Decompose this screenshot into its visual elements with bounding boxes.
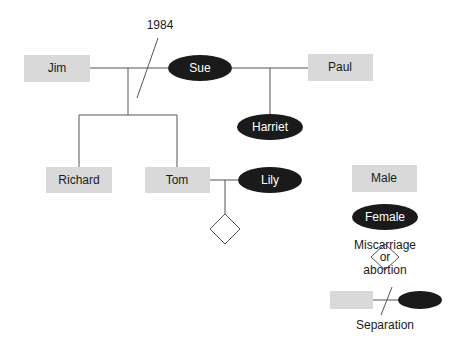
separation-slash bbox=[381, 287, 392, 315]
person-richard: Richard bbox=[46, 167, 112, 193]
person-label: Tom bbox=[166, 173, 189, 187]
legend-separation: Separation bbox=[330, 287, 442, 332]
legend-female: Female bbox=[352, 204, 418, 230]
person-label: Paul bbox=[328, 60, 352, 74]
person-label: Sue bbox=[189, 61, 211, 75]
person-paul: Paul bbox=[308, 54, 373, 81]
person-jim: Jim bbox=[24, 55, 90, 82]
person-label: Lily bbox=[261, 173, 279, 187]
person-sue: Sue bbox=[168, 55, 232, 81]
miscarriage-diamond bbox=[210, 214, 240, 244]
person-lily: Lily bbox=[238, 167, 302, 193]
person-label: Jim bbox=[48, 61, 67, 75]
legend-female-label: Female bbox=[365, 210, 405, 224]
legend-miscarriage-line3: abortion bbox=[363, 263, 406, 277]
genogram-diagram: 1984 Jim Sue Paul Harriet Richard Tom Li… bbox=[0, 0, 462, 344]
legend-male-label: Male bbox=[371, 171, 397, 185]
person-harriet: Harriet bbox=[237, 114, 303, 140]
person-label: Richard bbox=[58, 173, 99, 187]
legend-separation-label: Separation bbox=[356, 318, 414, 332]
separation-year-label: 1984 bbox=[147, 18, 174, 32]
legend-male: Male bbox=[352, 165, 417, 192]
person-tom: Tom bbox=[145, 167, 210, 193]
legend: Male Female Miscarriage or abortion Sepa… bbox=[330, 165, 442, 332]
female-ellipse bbox=[398, 291, 442, 309]
legend-miscarriage: Miscarriage or abortion bbox=[354, 238, 416, 277]
legend-miscarriage-line2: or bbox=[380, 250, 391, 264]
male-box bbox=[330, 291, 373, 309]
person-label: Harriet bbox=[252, 120, 289, 134]
